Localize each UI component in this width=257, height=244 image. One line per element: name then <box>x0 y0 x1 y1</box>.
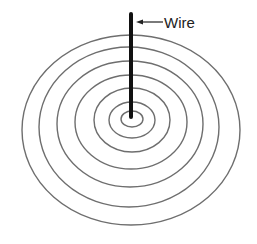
wire-magnetic-field-diagram: Wire <box>0 0 257 244</box>
arrowhead-icon <box>136 20 143 25</box>
wire-label: Wire <box>164 14 195 31</box>
